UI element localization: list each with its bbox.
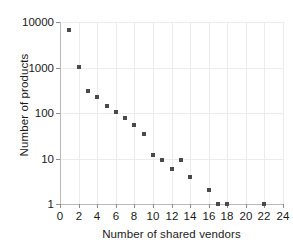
gridline-vertical (153, 22, 154, 204)
x-tick-mark (153, 204, 154, 208)
data-point (170, 167, 174, 171)
plot-area: 110100100010000 024681012141618202224 (60, 22, 283, 204)
gridline-vertical (209, 22, 210, 204)
x-tick-mark (190, 204, 191, 208)
x-tick-mark (283, 204, 284, 208)
gridline-vertical (264, 22, 265, 204)
data-point (77, 65, 81, 69)
data-point (262, 202, 266, 206)
gridline-vertical (283, 22, 284, 204)
data-point (160, 158, 164, 162)
x-tick-mark (246, 204, 247, 208)
y-tick-label: 10 (4, 151, 54, 167)
gridline-vertical (97, 22, 98, 204)
data-point (216, 202, 220, 206)
data-point (105, 104, 109, 108)
y-tick-label: 1000 (4, 60, 54, 76)
y-tick-mark (56, 22, 60, 23)
x-axis-label: Number of shared vendors (60, 228, 283, 240)
gridline-vertical (246, 22, 247, 204)
data-point (188, 175, 192, 179)
y-tick-mark (56, 68, 60, 69)
y-tick-mark (56, 113, 60, 114)
gridline-vertical (134, 22, 135, 204)
x-tick-mark (209, 204, 210, 208)
gridline-vertical (172, 22, 173, 204)
data-point (114, 110, 118, 114)
data-point (179, 158, 183, 162)
data-point (151, 153, 155, 157)
x-tick-label: 24 (268, 210, 293, 222)
x-tick-mark (134, 204, 135, 208)
data-point (95, 95, 99, 99)
data-point (123, 116, 127, 120)
data-point (86, 89, 90, 93)
x-tick-mark (172, 204, 173, 208)
chart-figure: Number of products 110100100010000 02468… (0, 0, 293, 247)
gridline-vertical (227, 22, 228, 204)
gridline-vertical (79, 22, 80, 204)
y-axis-line (60, 22, 61, 205)
data-point (132, 123, 136, 127)
data-point (225, 202, 229, 206)
y-tick-label: 100 (4, 105, 54, 121)
data-point (67, 28, 71, 32)
x-tick-mark (60, 204, 61, 208)
y-tick-label: 10000 (4, 14, 54, 30)
x-tick-mark (116, 204, 117, 208)
data-point (207, 188, 211, 192)
y-tick-mark (56, 159, 60, 160)
x-tick-mark (97, 204, 98, 208)
data-point (142, 132, 146, 136)
x-tick-mark (79, 204, 80, 208)
